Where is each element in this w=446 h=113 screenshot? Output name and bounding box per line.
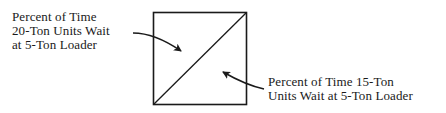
label-15-ton-wait: Percent of Time 15-Ton Units Wait at 5-T… <box>268 75 413 103</box>
label-line: 20-Ton Units Wait <box>12 24 110 38</box>
label-20-ton-wait: Percent of Time 20-Ton Units Wait at 5-T… <box>12 10 110 52</box>
label-line: Units Wait at 5-Ton Loader <box>268 89 413 103</box>
label-line: Percent of Time <box>12 10 110 24</box>
arrow-to-lower-triangle <box>223 72 264 89</box>
label-line: at 5-Ton Loader <box>12 38 110 52</box>
label-line: Percent of Time 15-Ton <box>268 75 413 89</box>
diagonal-divider <box>154 13 247 105</box>
arrow-to-upper-triangle <box>133 33 181 51</box>
